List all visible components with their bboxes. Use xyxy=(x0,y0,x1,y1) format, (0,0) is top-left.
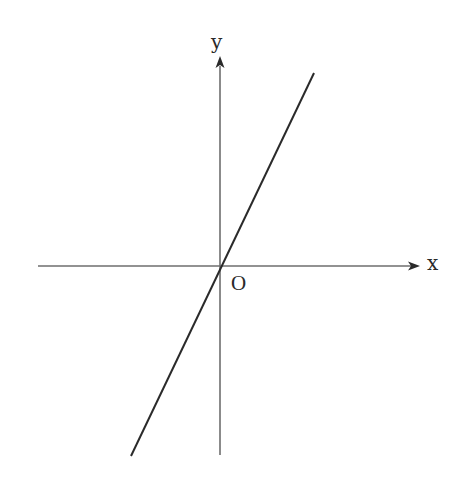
y-axis-label: y xyxy=(211,32,222,52)
y-axis xyxy=(216,56,225,455)
x-axis xyxy=(38,262,420,271)
origin-label: O xyxy=(231,273,246,294)
x-axis-label: x xyxy=(427,253,438,273)
linear-function-line xyxy=(131,73,314,456)
